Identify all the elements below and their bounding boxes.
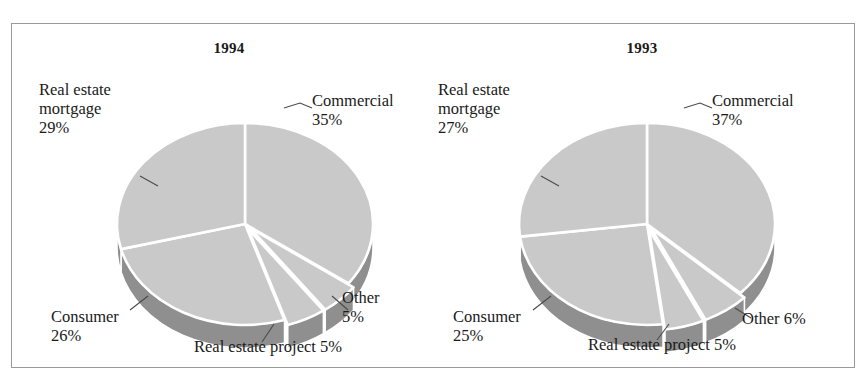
pie-label-consumer: Consumer 25% (453, 307, 521, 345)
pie-chart-1993: 1993 Real estate mortgage 27% Commercial… (429, 24, 851, 367)
figure-frame: 1994 Real estate mortgage 29% Commercial… (11, 23, 855, 368)
pie-label-commercial: Commercial 35% (312, 91, 394, 129)
pie-label-real-estate-mortgage: Real estate mortgage 29% (39, 80, 111, 137)
pie-label-other: Other 5% (342, 288, 380, 326)
pie-chart-1994: 1994 Real estate mortgage 29% Commercial… (12, 24, 434, 367)
pie-label-real-estate-project: Real estate project 5% (588, 335, 736, 354)
pie-label-consumer: Consumer 26% (51, 307, 119, 345)
pie-label-other: Other 6% (742, 309, 806, 328)
pie-label-commercial: Commercial 37% (712, 91, 794, 129)
pie-label-real-estate-project: Real estate project 5% (194, 337, 342, 356)
pie-label-real-estate-mortgage: Real estate mortgage 27% (438, 80, 510, 137)
